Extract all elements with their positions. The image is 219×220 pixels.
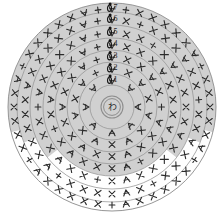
crochet-chart-figure: わ1234567: [0, 0, 219, 220]
magic-ring-label: わ: [108, 103, 117, 112]
